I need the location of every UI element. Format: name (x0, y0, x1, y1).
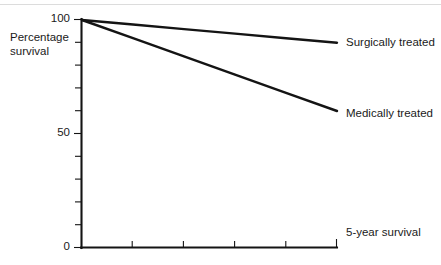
series-line-medically-treated (82, 20, 337, 111)
series-label-surgically-treated: Surgically treated (346, 36, 435, 50)
y-axis-title-line-1: Percentage (10, 31, 69, 45)
series-line-surgically-treated (82, 20, 337, 43)
survival-curve-figure: 100 50 0 Percentage survival Surgically … (0, 0, 441, 265)
y-axis-title-line-2: survival (10, 45, 49, 59)
five-year-survival-label: 5-year survival (346, 226, 421, 240)
y-axis-label-50: 50 (44, 126, 70, 140)
series-label-medically-treated: Medically treated (346, 107, 433, 121)
y-axis-label-0: 0 (44, 240, 70, 254)
y-axis-label-100: 100 (44, 12, 70, 26)
